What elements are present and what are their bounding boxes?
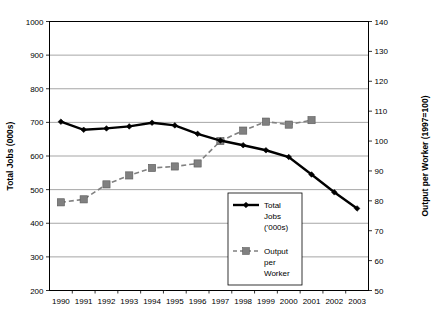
line-chart: 2003004005006007008009001000 50607080901… (0, 0, 437, 326)
legend-label: Total (264, 201, 281, 210)
y-tick-label: 1000 (26, 18, 44, 27)
x-tick-label: 2000 (280, 297, 298, 306)
y2-tick-label: 80 (375, 197, 384, 206)
data-point-marker (103, 181, 110, 188)
y2-tick-label: 50 (375, 287, 384, 296)
data-point-marker (126, 124, 132, 130)
y2-tick-label: 110 (375, 107, 388, 116)
y2-tick-label: 140 (375, 18, 389, 27)
y-axis-title: Total Jobs (000s) (5, 121, 15, 190)
y2-tick-label: 120 (375, 77, 389, 86)
x-tick-label: 1997 (211, 297, 229, 306)
series-line-output-per-worker (61, 120, 312, 202)
data-point-marker (243, 248, 250, 255)
y2-axis-title: Output per Worker (1997=100) (420, 95, 430, 216)
legend-label: Jobs (264, 212, 281, 221)
x-tick-label: 1999 (257, 297, 275, 306)
data-point-marker (308, 117, 315, 124)
gridlines-group (50, 55, 369, 257)
y-tick-label: 600 (30, 152, 44, 161)
y-tick-label: 200 (30, 287, 44, 296)
x-tick-label: 1994 (143, 297, 161, 306)
y-tick-label: 900 (30, 51, 44, 60)
data-point-marker (149, 120, 155, 126)
x-tick-label: 1995 (166, 297, 184, 306)
y2-tick-label: 130 (375, 47, 389, 56)
data-point-marker (171, 163, 178, 170)
x-tick-label: 2002 (325, 297, 343, 306)
legend-label: Worker (264, 269, 290, 278)
x-tick-label: 1992 (98, 297, 116, 306)
y-tick-label: 400 (30, 219, 44, 228)
x-tick-label: 1990 (52, 297, 70, 306)
data-point-marker (194, 160, 201, 167)
data-point-marker (57, 199, 64, 206)
y-tick-label: 700 (30, 118, 44, 127)
y-tick-label: 800 (30, 85, 44, 94)
data-point-marker (240, 127, 247, 134)
data-point-marker (285, 121, 292, 128)
x-tick-label: 1993 (120, 297, 138, 306)
data-point-marker (262, 118, 269, 125)
y2-tick-label: 100 (375, 137, 389, 146)
series-total-jobs (58, 119, 360, 211)
x-tick-label: 1991 (75, 297, 93, 306)
right-axis-tick-labels: 5060708090100110120130140 (375, 18, 389, 296)
x-tick-label: 1996 (189, 297, 207, 306)
data-point-marker (148, 164, 155, 171)
y-tick-label: 500 (30, 186, 44, 195)
data-point-marker (263, 147, 269, 153)
x-tick-label: 2003 (348, 297, 366, 306)
y2-tick-label: 60 (375, 257, 384, 266)
legend-label: Output (264, 247, 289, 256)
right-axis-ticks (369, 22, 373, 291)
chart-legend: TotalJobs('000s)OutputperWorker (228, 193, 302, 285)
y-tick-label: 300 (30, 253, 44, 262)
data-point-marker (240, 142, 246, 148)
x-axis-tick-labels: 1990199119921993199419951996199719981999… (52, 297, 367, 306)
y2-tick-label: 70 (375, 227, 384, 236)
x-tick-label: 1998 (234, 297, 252, 306)
x-tick-label: 2001 (303, 297, 321, 306)
legend-label: ('000s) (264, 223, 289, 232)
data-point-marker (104, 126, 110, 132)
left-axis-ticks (46, 22, 50, 291)
data-point-marker (80, 196, 87, 203)
series-line-total-jobs (61, 122, 357, 209)
y2-tick-label: 90 (375, 167, 384, 176)
data-point-marker (126, 172, 133, 179)
left-axis-tick-labels: 2003004005006007008009001000 (26, 18, 44, 296)
chart-container: 2003004005006007008009001000 50607080901… (0, 0, 437, 326)
legend-label: per (264, 258, 276, 267)
